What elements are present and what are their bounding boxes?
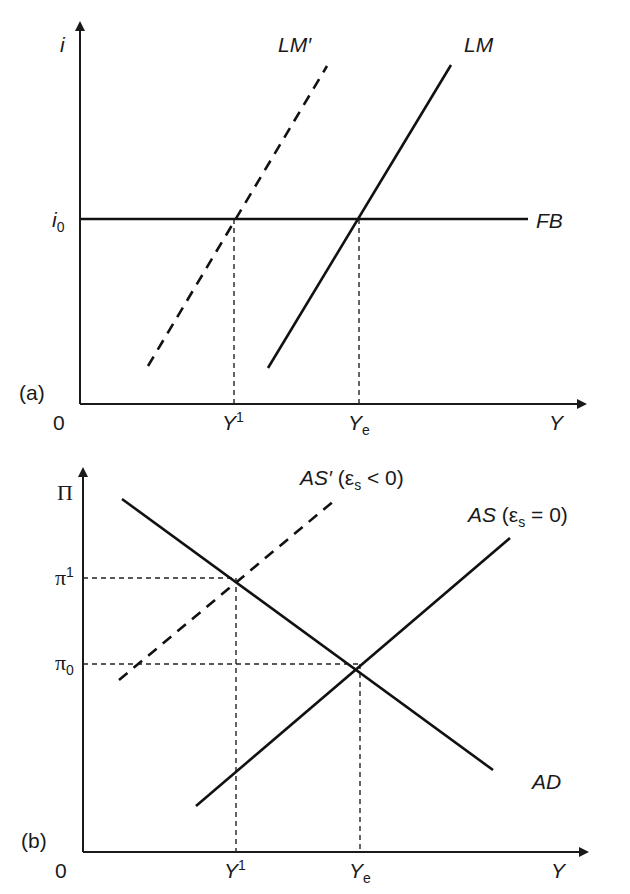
panel-b-y-tick-pi1: π1 bbox=[55, 564, 74, 590]
as-prime-label: AS′ (εs < 0) bbox=[298, 466, 404, 493]
panel-b-x-tick-y1: Y1 bbox=[224, 857, 246, 882]
figure: i i0 LM′ LM FB (a) 0 Y1 Ye Y Π π1 π0 AS′… bbox=[0, 0, 630, 894]
as-prime-curve bbox=[119, 500, 335, 680]
panel-a-x-axis-label: Y bbox=[549, 411, 565, 434]
lm-prime-label: LM′ bbox=[278, 33, 312, 56]
panel-b: Π π1 π0 AS′ (εs < 0) AS (εs = 0) AD (b) … bbox=[21, 466, 584, 886]
panel-a-y-tick-i0: i0 bbox=[52, 208, 65, 235]
as-label: AS (εs = 0) bbox=[466, 503, 568, 530]
panel-b-y-tick-pi0: π0 bbox=[55, 650, 74, 678]
panel-b-y-axis-label: Π bbox=[57, 480, 73, 505]
panel-b-tag: (b) bbox=[21, 829, 47, 852]
panel-b-x-tick-ye: Ye bbox=[349, 859, 371, 886]
ad-curve bbox=[122, 499, 493, 770]
panel-a-x-tick-ye: Ye bbox=[348, 411, 370, 438]
panel-a: i i0 LM′ LM FB (a) 0 Y1 Ye Y bbox=[19, 26, 582, 438]
panel-a-origin: 0 bbox=[53, 411, 65, 434]
panel-a-y-axis-label: i bbox=[60, 33, 66, 56]
panel-b-x-axis-label: Y bbox=[551, 859, 567, 882]
lm-label: LM bbox=[464, 33, 494, 56]
fb-label: FB bbox=[536, 209, 563, 232]
panel-a-x-tick-y1: Y1 bbox=[222, 409, 244, 434]
lm-prime-curve bbox=[148, 66, 327, 366]
ad-label: AD bbox=[530, 770, 561, 793]
panel-a-tag: (a) bbox=[19, 381, 45, 404]
panel-b-origin: 0 bbox=[55, 859, 67, 882]
